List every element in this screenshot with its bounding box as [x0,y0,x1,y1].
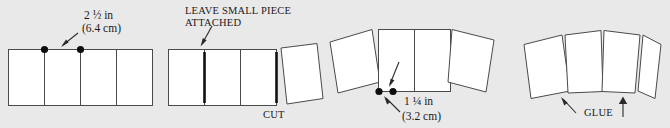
step-4-callout-glue: GLUE [584,107,613,118]
step-3-panel-right [448,30,494,93]
step-3-callout-line1: 1 ¼ in [404,95,433,107]
step-4-leader-vertical-head [619,97,627,105]
step-1-measure-inches: 2 ½ in [84,9,113,21]
step-1-leader-arrowhead [61,40,69,48]
step-3-dot-2 [389,88,396,95]
step-1-dot-1 [41,46,48,53]
step-3-callout-line2: (3.2 cm) [402,110,441,123]
step-3-group: 1 ¼ in (3.2 cm) [330,30,494,124]
step-2-detached-panel [281,44,323,105]
step-2-callout-line1: LEAVE SMALL PIECE [185,5,291,16]
instruction-diagram: 2 ½ in (6.4 cm) LEAVE SMALL PIECE ATTACH… [0,0,670,128]
step-2-callout-line2: ATTACHED [185,17,241,28]
step-2-group: LEAVE SMALL PIECE ATTACHED CUT [169,5,324,120]
diagram-canvas: 2 ½ in (6.4 cm) LEAVE SMALL PIECE ATTACH… [0,0,670,128]
step-3-measure-inches: 1 ¼ in [404,95,433,107]
step-4-panel-4 [638,35,661,99]
step-3-panel-left [330,30,380,94]
step-4-panel-2 [565,31,603,94]
step-4-panel-3 [602,31,640,94]
step-4-panel-1 [524,35,570,99]
step-2-callout-cut: CUT [263,109,285,120]
step-2-leader-arrowhead [201,38,207,46]
step-1-dot-2 [77,46,84,53]
step-4-leader-diagonal-head [561,97,568,105]
step-1-callout-line2: (6.4 cm) [82,22,121,35]
step-2-strip [169,50,277,106]
step-4-group: GLUE [524,31,661,119]
step-1-callout-line1: 2 ½ in [84,9,113,21]
step-1-group: 2 ½ in (6.4 cm) [9,9,153,106]
step-3-dot-1 [375,88,382,95]
step-3-leader-arrowhead [384,96,390,105]
